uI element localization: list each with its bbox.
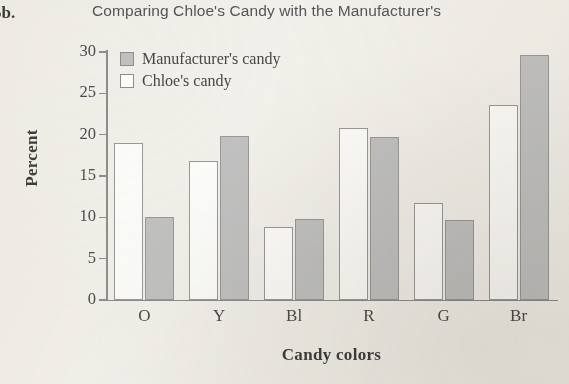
bar — [370, 137, 399, 300]
y-axis-tick-mark — [99, 175, 107, 177]
y-axis-tick-label: 0 — [60, 291, 96, 308]
bar — [339, 128, 368, 300]
y-axis-tick-labels: 051015202530 — [56, 0, 96, 384]
y-axis-tick-label: 15 — [60, 167, 96, 184]
x-axis-tick-label: Br — [489, 306, 549, 326]
y-axis-tick-mark — [99, 217, 107, 219]
y-axis-tick-label: 20 — [60, 126, 96, 143]
legend-item: Chloe's candy — [120, 70, 280, 92]
x-axis-title: Candy colors — [107, 345, 556, 365]
bar — [264, 227, 293, 300]
legend-label: Chloe's candy — [142, 73, 232, 89]
x-axis-tick-label: G — [414, 306, 474, 326]
bar — [295, 219, 324, 300]
legend-swatch-icon — [120, 52, 134, 66]
problem-number: 5b. — [0, 3, 15, 23]
x-axis-tick-label: O — [114, 306, 174, 326]
bar — [414, 203, 443, 300]
y-axis-title: Percent — [22, 93, 42, 223]
y-axis-tick-mark — [99, 51, 107, 53]
y-axis-tick-label: 5 — [60, 250, 96, 267]
figure-root: 5b. Comparing Chloe's Candy with the Man… — [0, 0, 569, 384]
bar — [489, 105, 518, 300]
y-axis-tick-label: 30 — [60, 43, 96, 60]
bar — [520, 55, 549, 300]
bar — [145, 217, 174, 300]
y-axis-tick-mark — [99, 93, 107, 95]
legend-item: Manufacturer's candy — [120, 48, 280, 70]
y-axis-tick-mark — [99, 299, 107, 301]
legend-label: Manufacturer's candy — [142, 51, 280, 67]
x-axis-tick-label: Y — [189, 306, 249, 326]
chart-legend: Manufacturer's candyChloe's candy — [120, 48, 280, 92]
x-axis-tick-label: Bl — [264, 306, 324, 326]
bar — [220, 136, 249, 301]
bar — [445, 220, 474, 300]
y-axis-tick-mark — [99, 134, 107, 136]
x-axis-tick-label: R — [339, 306, 399, 326]
bar — [114, 143, 143, 300]
y-axis-tick-label: 25 — [60, 84, 96, 101]
bar — [189, 161, 218, 300]
chart-title: Comparing Chloe's Candy with the Manufac… — [92, 2, 562, 20]
legend-swatch-icon — [120, 74, 134, 88]
y-axis-tick-label: 10 — [60, 208, 96, 225]
y-axis-tick-mark — [99, 258, 107, 260]
